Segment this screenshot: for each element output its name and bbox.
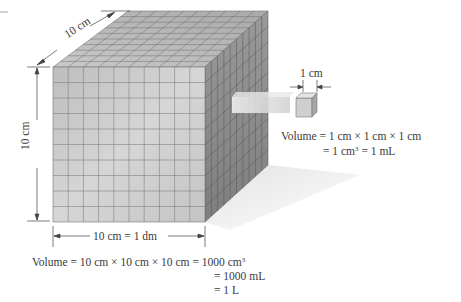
height-label: 10 cm bbox=[19, 122, 32, 150]
large-volume-line1: Volume = 10 cm × 10 cm × 10 cm = 1000 cm… bbox=[32, 256, 245, 269]
large-volume-line2: = 1000 mL bbox=[214, 270, 265, 283]
width-label: 10 cm = 1 dm bbox=[93, 230, 157, 243]
large-volume-exponent: 3 bbox=[242, 256, 246, 264]
small-cube-edge-label: 1 cm bbox=[300, 67, 323, 80]
small-volume-line2-suffix: = 1 mL bbox=[359, 145, 396, 157]
small-volume-line2-prefix: = 1 cm bbox=[323, 145, 355, 157]
large-volume-line1-text: Volume = 10 cm × 10 cm × 10 cm = 1000 cm bbox=[32, 256, 242, 268]
small-volume-line2: = 1 cm3 = 1 mL bbox=[323, 145, 395, 158]
extraction-bar bbox=[232, 92, 294, 113]
small-volume-line1: Volume = 1 cm × 1 cm × 1 cm bbox=[281, 130, 421, 143]
large-volume-line3: = 1 L bbox=[214, 284, 239, 297]
small-volume-exponent: 3 bbox=[355, 145, 359, 153]
cube-front-face bbox=[53, 67, 205, 222]
small-cube bbox=[296, 93, 317, 117]
small-cube-dimension bbox=[290, 80, 331, 92]
